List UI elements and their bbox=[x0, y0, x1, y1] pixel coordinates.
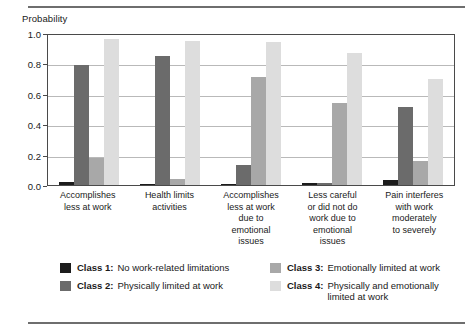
bar bbox=[170, 179, 185, 185]
bar bbox=[74, 65, 89, 185]
bar bbox=[185, 41, 200, 185]
x-axis-label-line: less at work bbox=[48, 202, 128, 214]
bar bbox=[383, 180, 398, 185]
y-axis: 0.00.20.40.60.81.0 bbox=[0, 0, 47, 186]
bar-group bbox=[373, 35, 454, 185]
legend-item: Class 2:Physically limited at work bbox=[60, 280, 270, 292]
legend-item: Class 3:Emotionally limited at work bbox=[270, 262, 460, 274]
bar bbox=[398, 107, 413, 185]
x-axis-label-line: activities bbox=[130, 202, 210, 214]
legend-class-label: Class 3: bbox=[287, 262, 323, 273]
legend-column: Class 1:No work-related limitationsClass… bbox=[60, 262, 270, 309]
legend-class-description: Physically limited at work bbox=[117, 280, 223, 292]
top-divider-rule bbox=[28, 6, 465, 8]
bar bbox=[413, 161, 428, 185]
bar-group bbox=[210, 35, 291, 185]
x-axis-label-line: moderately bbox=[374, 213, 454, 225]
bar bbox=[347, 53, 362, 185]
x-axis-label-line: less at work bbox=[211, 202, 291, 214]
bar bbox=[236, 165, 251, 185]
x-axis-label-line: Accomplishes bbox=[48, 190, 128, 202]
legend-item: Class 4:Physically and emotionally limit… bbox=[270, 280, 460, 303]
y-axis-tick-label: 0.4 bbox=[28, 120, 41, 131]
bottom-divider-rule bbox=[28, 322, 465, 324]
legend-class-description: Physically and emotionally limited at wo… bbox=[327, 280, 460, 303]
bar-groups bbox=[48, 35, 454, 185]
bar-group bbox=[48, 35, 129, 185]
x-axis-category-labels: Accomplishesless at workHealth limitsact… bbox=[47, 190, 455, 248]
legend-class-description: No work-related limitations bbox=[117, 262, 229, 274]
plot-area bbox=[47, 34, 455, 186]
y-axis-tick-label: 1.0 bbox=[28, 29, 41, 40]
x-axis-label-line: Less careful bbox=[293, 190, 373, 202]
x-axis-category-label: Less carefulor did not dowork due toemot… bbox=[292, 190, 374, 248]
bar bbox=[251, 77, 266, 185]
bar bbox=[428, 79, 443, 185]
bar bbox=[140, 184, 155, 185]
x-axis-label-line: with work bbox=[374, 202, 454, 214]
x-axis-label-line: emotional bbox=[293, 225, 373, 237]
legend-class-label: Class 1: bbox=[77, 262, 113, 273]
bar bbox=[266, 42, 281, 185]
legend-color-swatch bbox=[60, 281, 71, 291]
y-axis-tick-label: 0.8 bbox=[28, 59, 41, 70]
x-axis-category-label: Pain interfereswith workmoderatelyto sev… bbox=[373, 190, 455, 248]
bar bbox=[155, 56, 170, 185]
bar bbox=[302, 183, 317, 185]
bar bbox=[317, 183, 332, 185]
legend-item: Class 1:No work-related limitations bbox=[60, 262, 270, 274]
legend-class-label: Class 2: bbox=[77, 280, 113, 291]
x-axis-label-line: issues bbox=[293, 236, 373, 248]
x-axis-label-line: Accomplishes bbox=[211, 190, 291, 202]
bar bbox=[59, 182, 74, 185]
x-axis-category-label: Accomplishesless at work bbox=[47, 190, 129, 248]
y-axis-tick-label: 0.0 bbox=[28, 181, 41, 192]
legend-column: Class 3:Emotionally limited at workClass… bbox=[270, 262, 460, 309]
bar bbox=[221, 184, 236, 185]
legend-class-label: Class 4: bbox=[287, 280, 323, 291]
y-axis-tick-label: 0.2 bbox=[28, 150, 41, 161]
x-axis-label-line: Health limits bbox=[130, 190, 210, 202]
y-axis-tick-mark bbox=[43, 186, 47, 187]
x-axis-label-line: or did not do bbox=[293, 202, 373, 214]
x-axis-label-line: emotional bbox=[211, 225, 291, 237]
bar bbox=[89, 158, 104, 185]
x-axis-label-line: Pain interferes bbox=[374, 190, 454, 202]
x-axis-category-label: Accomplishesless at workdue toemotionali… bbox=[210, 190, 292, 248]
bar-group bbox=[292, 35, 373, 185]
x-axis-label-line: to severely bbox=[374, 225, 454, 237]
chart-legend: Class 1:No work-related limitationsClass… bbox=[60, 262, 460, 309]
legend-class-description: Emotionally limited at work bbox=[327, 262, 439, 274]
legend-color-swatch bbox=[270, 263, 281, 273]
legend-color-swatch bbox=[60, 263, 71, 273]
x-axis-category-label: Health limitsactivities bbox=[129, 190, 211, 248]
bar bbox=[104, 39, 119, 185]
bar-group bbox=[129, 35, 210, 185]
x-axis-label-line: work due to bbox=[293, 213, 373, 225]
bar bbox=[332, 103, 347, 185]
y-axis-tick-label: 0.6 bbox=[28, 89, 41, 100]
legend-color-swatch bbox=[270, 281, 281, 291]
x-axis-label-line: issues bbox=[211, 236, 291, 248]
x-axis-label-line: due to bbox=[211, 213, 291, 225]
